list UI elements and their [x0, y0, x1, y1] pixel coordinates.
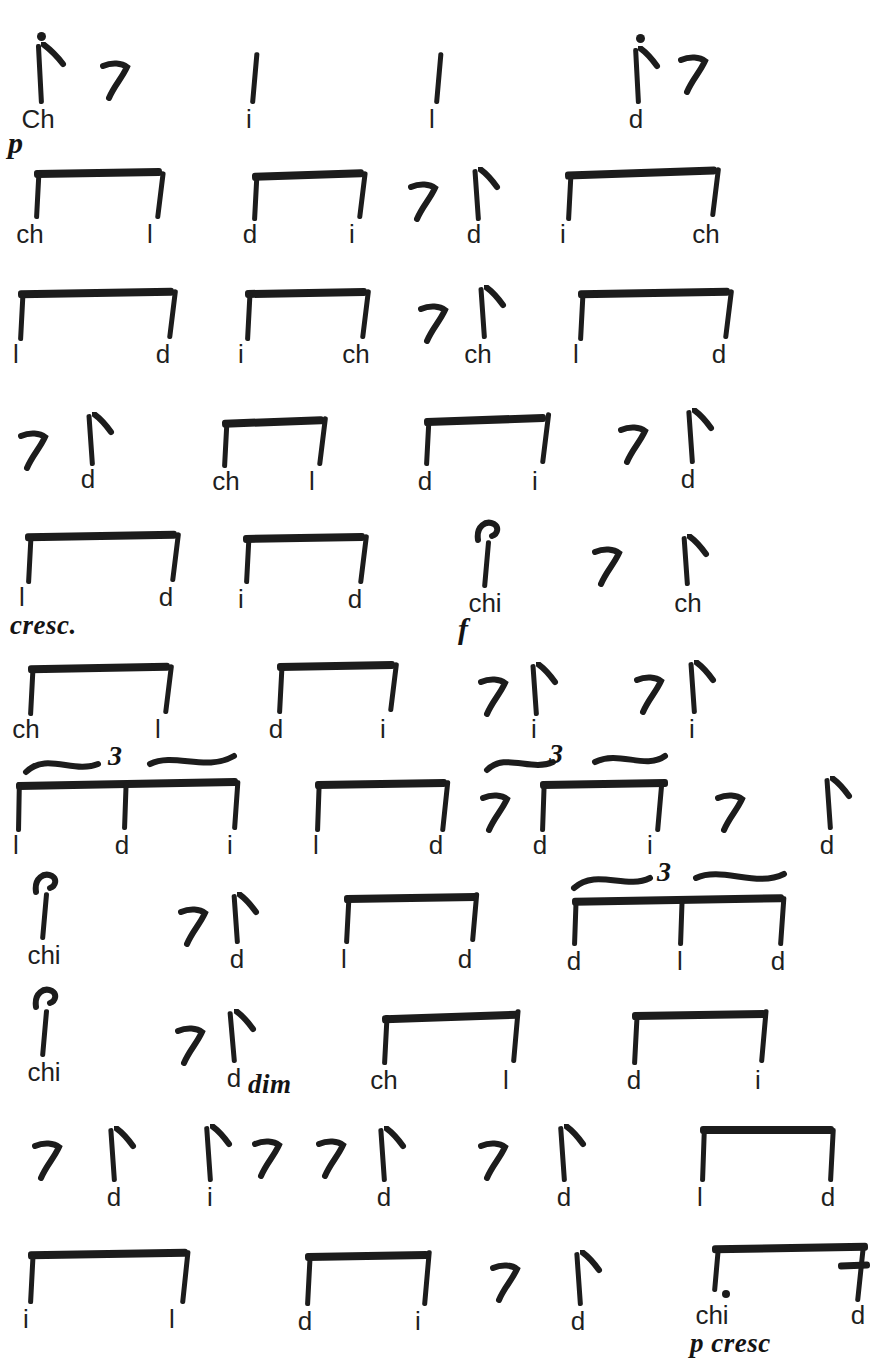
eighth-flag-icon	[384, 1126, 410, 1148]
syllable-label: l	[155, 716, 161, 742]
note-stem	[26, 534, 34, 584]
note-stem	[578, 291, 586, 341]
syllable-label: d	[159, 584, 173, 610]
syllable-label: l	[13, 341, 19, 367]
note-stem	[222, 420, 230, 468]
syllable-label: ch	[464, 341, 491, 367]
note-stem	[482, 540, 491, 588]
syllable-label: i	[415, 1308, 421, 1334]
syllable-label: ch	[370, 1067, 397, 1093]
syllable-label: ch	[12, 716, 39, 742]
syllable-label: i	[532, 468, 538, 494]
staccato-dot-icon	[636, 34, 645, 43]
beam	[25, 531, 177, 542]
note-stem	[34, 171, 42, 219]
syllable-label: d	[820, 832, 834, 858]
beam	[382, 1011, 520, 1024]
syllable-label: l	[677, 948, 683, 974]
beam	[632, 1010, 766, 1020]
eighth-rest-icon	[678, 52, 712, 98]
eighth-rest-icon	[490, 1260, 524, 1306]
note-stem	[778, 896, 786, 946]
note-stem	[277, 664, 285, 714]
syllable-label: d	[377, 1184, 391, 1210]
eighth-rest-icon	[592, 544, 626, 590]
syllable-label: d	[567, 948, 581, 974]
eighth-flag-icon	[830, 776, 856, 798]
syllable-label: i	[755, 1067, 761, 1093]
eighth-flag-icon	[687, 534, 713, 556]
syllable-label: d	[156, 341, 170, 367]
eighth-flag-icon	[580, 1250, 606, 1272]
note-stem	[315, 782, 322, 832]
syllable-label: i	[349, 221, 355, 247]
syllable-label: chi	[468, 590, 501, 616]
syllable-label: d	[533, 832, 547, 858]
note-stem	[434, 52, 444, 104]
note-stem	[244, 536, 252, 584]
augmentation-dot-icon	[722, 1290, 730, 1298]
beam-secondary	[838, 1261, 870, 1269]
syllable-label: d	[629, 106, 643, 132]
beam	[315, 779, 447, 789]
syllable-label: d	[712, 341, 726, 367]
note-stem	[358, 534, 369, 584]
syllable-label: d	[230, 946, 244, 972]
notation-row-1: Ch i l d p	[0, 10, 883, 128]
syllable-label: d	[227, 1065, 241, 1091]
beam	[28, 1249, 188, 1260]
syllable-label: d	[821, 1184, 835, 1210]
beam	[245, 288, 367, 298]
eighth-rest-icon	[252, 1136, 286, 1182]
note-stem	[305, 1254, 313, 1306]
notation-row-8: chi d l d 3	[0, 868, 883, 986]
eighth-flag-icon	[478, 167, 504, 189]
syllable-label: d	[298, 1308, 312, 1334]
eighth-rest-icon	[715, 790, 749, 836]
beam	[424, 414, 546, 426]
eighth-rest-icon	[178, 904, 212, 950]
eighth-rest-icon	[32, 1138, 66, 1184]
note-stem	[388, 662, 399, 712]
eighth-rest-icon	[175, 1023, 209, 1069]
note-stem	[357, 171, 368, 219]
syllable-label: i	[207, 1184, 213, 1210]
syllable-label: Ch	[21, 106, 54, 132]
eighth-flag-icon	[237, 892, 263, 914]
notation-row-10: d i d d	[0, 1108, 883, 1226]
note-stem	[250, 52, 260, 104]
beam	[277, 661, 395, 671]
eighth-rest-icon	[618, 422, 652, 468]
note-stem	[18, 291, 26, 341]
syllable-label: d	[851, 1302, 865, 1328]
syllable-label: l	[573, 341, 579, 367]
syllable-label: d	[243, 221, 257, 247]
note-stem	[424, 418, 432, 466]
syllable-label: d	[458, 946, 472, 972]
accent-mark-icon	[30, 985, 64, 1011]
syllable-label: chi	[27, 1059, 60, 1085]
syllable-label: l	[503, 1067, 509, 1093]
syllable-label: i	[246, 106, 252, 132]
eighth-flag-icon	[638, 46, 664, 68]
syllable-label: i	[380, 716, 386, 742]
syllable-label: d	[771, 948, 785, 974]
syllable-label: i	[647, 832, 653, 858]
note-stem	[16, 782, 22, 832]
beam	[34, 168, 162, 178]
note-stem	[655, 780, 665, 832]
eighth-rest-icon	[408, 179, 442, 225]
syllable-label: d	[348, 586, 362, 612]
beam	[243, 533, 365, 543]
notation-row-5: l d i d chi ch cresc. f	[0, 518, 883, 636]
syllable-label: i	[531, 716, 537, 742]
notation-row-4: d ch l d i d	[0, 400, 883, 518]
syllable-label: l	[13, 832, 19, 858]
syllable-label: d	[107, 1184, 121, 1210]
eighth-flag-icon	[692, 408, 718, 430]
beam	[565, 166, 717, 179]
dynamic-cresc: cresc.	[10, 610, 77, 641]
beam	[344, 893, 478, 903]
note-stem	[28, 1252, 36, 1304]
syllable-label: l	[429, 106, 435, 132]
